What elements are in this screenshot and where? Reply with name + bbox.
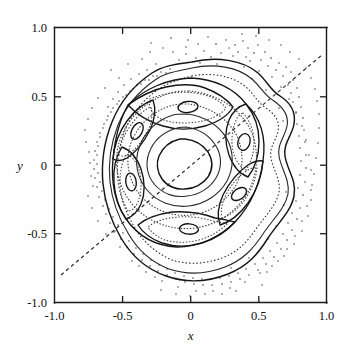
y-axis-title: y: [15, 158, 23, 173]
xtick-label-2: -0.5: [113, 309, 133, 323]
poincare-section-plot: 1.0 0.5 0 -0.5 -1.0 -1.0 -0.5 0 0.5 1.0 …: [0, 0, 350, 350]
ytick-label-5: -1.0: [27, 296, 47, 310]
xtick-label-1: -1.0: [45, 309, 65, 323]
xtick-label-5: 1.0: [319, 309, 335, 323]
x-axis-title: x: [187, 328, 194, 343]
ytick-label-2: 0.5: [31, 90, 47, 104]
figure-root: Figure 4.2 Poincare surface of section (…: [0, 0, 350, 350]
xtick-label-4: 0.5: [251, 309, 267, 323]
ytick-label-3: 0: [41, 159, 47, 173]
ytick-label-4: -0.5: [27, 227, 47, 241]
xtick-label-3: 0: [188, 309, 194, 323]
plot-background: [0, 0, 350, 350]
ytick-label-1: 1.0: [31, 21, 47, 35]
